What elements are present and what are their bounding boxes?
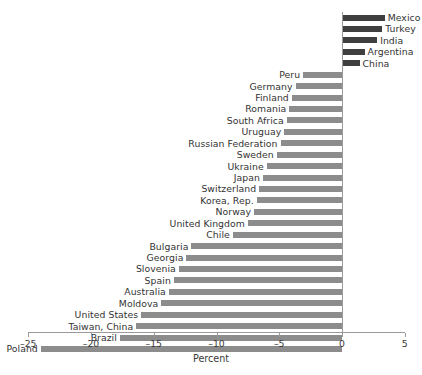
bar-label: Taiwan, China — [68, 321, 133, 332]
bar-label: Turkey — [385, 23, 416, 34]
bar-label: Japan — [234, 172, 260, 183]
bar-row: Mexico — [0, 12, 422, 23]
x-tick-label: 5 — [385, 338, 422, 349]
bar-row: Chile — [0, 229, 422, 240]
bar-label: Russian Federation — [188, 138, 277, 149]
bar-row: Japan — [0, 172, 422, 183]
x-tick-label: 0 — [322, 338, 362, 349]
bar-finland[interactable] — [292, 95, 342, 101]
bar-ukraine[interactable] — [267, 163, 342, 169]
bar-row: Germany — [0, 81, 422, 92]
bar-label: South Africa — [227, 115, 284, 126]
bar-norway[interactable] — [254, 209, 342, 215]
x-tick-mark — [342, 333, 343, 337]
bar-row: Switzerland — [0, 183, 422, 194]
bar-argentina[interactable] — [342, 49, 365, 55]
bar-row: Uruguay — [0, 126, 422, 137]
x-tick-label: –5 — [259, 338, 299, 349]
bar-row: Norway — [0, 206, 422, 217]
bar-moldova[interactable] — [161, 300, 342, 306]
x-tick-label: –25 — [8, 338, 48, 349]
bar-chart: MexicoTurkeyIndiaArgentinaChinaPeruGerma… — [0, 0, 422, 375]
bar-row: Argentina — [0, 46, 422, 57]
zero-axis-line — [342, 12, 343, 332]
x-tick-label: –15 — [134, 338, 174, 349]
x-tick-mark — [405, 333, 406, 337]
bar-label: Germany — [249, 81, 292, 92]
bar-label: Australia — [124, 286, 166, 297]
bar-chile[interactable] — [233, 232, 342, 238]
bar-row: South Africa — [0, 115, 422, 126]
bar-label: United States — [75, 309, 139, 320]
plot-area: MexicoTurkeyIndiaArgentinaChinaPeruGerma… — [0, 0, 422, 375]
bar-label: Uruguay — [241, 126, 281, 137]
bar-label: Chile — [206, 229, 230, 240]
bar-label: Spain — [145, 275, 171, 286]
bar-row: Korea, Rep. — [0, 195, 422, 206]
bar-spain[interactable] — [174, 277, 342, 283]
bar-germany[interactable] — [296, 83, 342, 89]
bar-bulgaria[interactable] — [191, 243, 342, 249]
bar-label: Mexico — [388, 12, 421, 23]
bar-uruguay[interactable] — [284, 129, 342, 135]
bar-label: Norway — [216, 206, 252, 217]
bar-china[interactable] — [342, 60, 360, 66]
bar-sweden[interactable] — [277, 152, 342, 158]
bar-peru[interactable] — [303, 72, 342, 78]
bar-label: Slovenia — [136, 263, 176, 274]
bar-label: Georgia — [147, 252, 184, 263]
bar-row: Bulgaria — [0, 241, 422, 252]
bar-row: Moldova — [0, 298, 422, 309]
bar-label: Romania — [245, 103, 286, 114]
bar-label: Peru — [279, 69, 300, 80]
bar-row: Taiwan, China — [0, 321, 422, 332]
bar-romania[interactable] — [289, 106, 342, 112]
bar-slovenia[interactable] — [179, 266, 342, 272]
x-tick-mark — [279, 333, 280, 337]
bar-row: United States — [0, 309, 422, 320]
bar-united-kingdom[interactable] — [248, 220, 342, 226]
x-tick-mark — [91, 333, 92, 337]
x-tick-mark — [154, 333, 155, 337]
bar-label: Argentina — [368, 46, 414, 57]
bar-label: India — [380, 35, 403, 46]
bar-japan[interactable] — [263, 175, 342, 181]
bar-label: United Kingdom — [170, 218, 245, 229]
bar-label: Sweden — [237, 149, 274, 160]
bar-row: China — [0, 58, 422, 69]
bar-label: China — [363, 58, 390, 69]
x-tick-mark — [217, 333, 218, 337]
bar-label: Korea, Rep. — [200, 195, 253, 206]
bar-row: Ukraine — [0, 161, 422, 172]
bar-india[interactable] — [342, 37, 377, 43]
bar-row: Romania — [0, 103, 422, 114]
bar-row: United Kingdom — [0, 218, 422, 229]
bar-russian-federation[interactable] — [281, 140, 342, 146]
bar-row: Slovenia — [0, 263, 422, 274]
bar-united-states[interactable] — [141, 312, 342, 318]
bar-row: Georgia — [0, 252, 422, 263]
bar-label: Bulgaria — [149, 241, 188, 252]
x-tick-mark — [28, 333, 29, 337]
x-tick-label: –20 — [71, 338, 111, 349]
bar-georgia[interactable] — [186, 255, 342, 261]
bar-row: Spain — [0, 275, 422, 286]
bar-turkey[interactable] — [342, 26, 382, 32]
bar-row: Finland — [0, 92, 422, 103]
bar-south-africa[interactable] — [287, 117, 342, 123]
bar-row: Australia — [0, 286, 422, 297]
bar-label: Ukraine — [227, 161, 263, 172]
x-axis-title: Percent — [0, 353, 422, 364]
bar-row: Russian Federation — [0, 138, 422, 149]
bar-row: Peru — [0, 69, 422, 80]
bar-australia[interactable] — [169, 289, 342, 295]
bar-label: Switzerland — [201, 183, 256, 194]
bar-label: Finland — [255, 92, 289, 103]
bar-row: Turkey — [0, 23, 422, 34]
bar-taiwan-china[interactable] — [136, 323, 342, 329]
bar-label: Moldova — [119, 298, 158, 309]
bar-switzerland[interactable] — [259, 186, 342, 192]
bar-korea-rep[interactable] — [257, 197, 342, 203]
bar-row: Sweden — [0, 149, 422, 160]
bar-mexico[interactable] — [342, 15, 385, 21]
